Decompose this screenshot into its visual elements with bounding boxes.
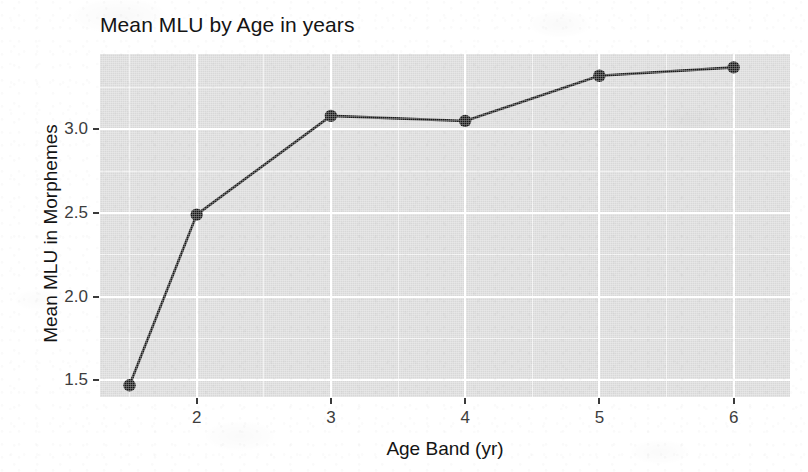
tick-label-x: 4	[445, 408, 485, 427]
tick-mark-x	[196, 398, 198, 404]
tick-label-x: 5	[579, 408, 619, 427]
tick-label-y: 2.0	[64, 288, 88, 306]
tick-label-y: 1.5	[64, 371, 88, 389]
tick-label-x: 3	[311, 408, 351, 427]
series-line	[130, 67, 734, 385]
tick-label-x: 2	[177, 408, 217, 427]
series-data-point	[123, 379, 135, 391]
chart-figure: Mean MLU by Age in years Mean MLU in Mor…	[0, 0, 808, 472]
series-data-point	[190, 208, 202, 220]
tick-mark-y	[93, 212, 99, 214]
series-data-point	[325, 110, 337, 122]
series-points	[123, 61, 739, 391]
tick-mark-y	[93, 128, 99, 130]
series-data-point	[727, 61, 739, 73]
tick-mark-x	[464, 398, 466, 404]
tick-mark-y	[93, 296, 99, 298]
chart-title: Mean MLU by Age in years	[100, 12, 355, 38]
tick-mark-x	[733, 398, 735, 404]
x-axis-title: Age Band (yr)	[100, 437, 790, 460]
series-data-point	[593, 70, 605, 82]
y-axis-title: Mean MLU in Morphemes	[39, 62, 62, 406]
series-layer	[100, 54, 790, 397]
tick-label-x: 6	[714, 408, 754, 427]
tick-mark-y	[93, 379, 99, 381]
tick-label-y: 3.0	[64, 120, 88, 138]
series-data-point	[459, 115, 471, 127]
plot-panel	[100, 54, 790, 397]
tick-mark-x	[330, 398, 332, 404]
tick-label-y: 2.5	[64, 204, 88, 222]
tick-mark-x	[598, 398, 600, 404]
